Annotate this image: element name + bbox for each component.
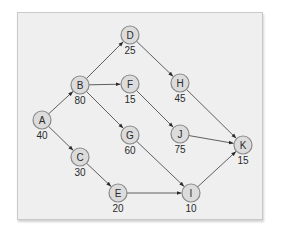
node-label: K (240, 140, 247, 151)
node-a: A40 (33, 111, 51, 141)
node-label: I (190, 188, 193, 199)
node-label: F (127, 79, 133, 90)
edge-i-k (198, 151, 236, 186)
edge-b-f (89, 84, 121, 85)
node-value: 10 (185, 203, 197, 214)
node-f: F15 (121, 75, 139, 105)
edge-a-c (48, 126, 73, 150)
node-label: J (178, 129, 183, 140)
node-value: 75 (174, 144, 186, 155)
node-value: 20 (112, 203, 124, 214)
edge-d-h (136, 41, 173, 76)
node-value: 15 (124, 94, 136, 105)
node-c: C30 (71, 148, 89, 178)
edge-b-d (86, 42, 123, 79)
node-label: C (76, 152, 83, 163)
node-d: D25 (121, 26, 139, 56)
edge-b-g (86, 91, 123, 128)
node-label: A (39, 115, 46, 126)
edge-j-k (189, 136, 234, 144)
node-label: B (77, 80, 84, 91)
edge-f-j (136, 90, 173, 127)
node-label: H (176, 78, 183, 89)
node-value: 80 (74, 95, 86, 106)
node-label: E (115, 188, 122, 199)
node-i: I10 (182, 184, 200, 214)
node-k: K15 (234, 136, 252, 166)
node-value: 40 (36, 130, 48, 141)
node-value: 60 (124, 145, 136, 156)
edge-c-e (87, 163, 112, 186)
node-value: 45 (174, 93, 186, 104)
node-value: 25 (124, 45, 136, 56)
node-label: G (126, 130, 134, 141)
node-value: 15 (237, 155, 249, 166)
nodes-layer: A40B80C30D25E20F15G60H45I10J75K15 (33, 26, 252, 214)
node-g: G60 (121, 126, 139, 156)
edge-a-b (49, 91, 73, 113)
node-label: D (126, 30, 133, 41)
node-b: B80 (71, 76, 89, 106)
node-h: H45 (171, 74, 189, 104)
edge-h-k (186, 89, 236, 138)
node-e: E20 (109, 184, 127, 214)
node-j: J75 (171, 125, 189, 155)
network-diagram: A40B80C30D25E20F15G60H45I10J75K15 (0, 0, 284, 237)
node-value: 30 (74, 167, 86, 178)
